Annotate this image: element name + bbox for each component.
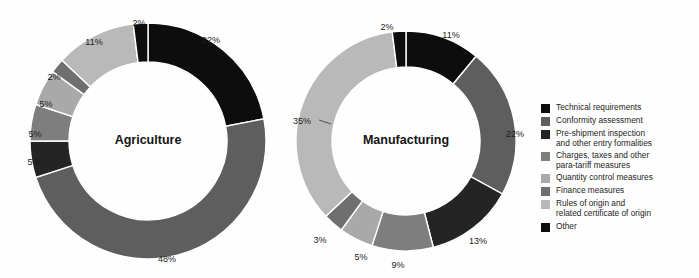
- agriculture-label-quantity: 5%: [39, 99, 52, 109]
- legend-swatch-icon: [541, 117, 550, 126]
- manufacturing-label-charges: 9%: [391, 260, 404, 270]
- legend-swatch-icon: [541, 152, 550, 161]
- legend-item[interactable]: Other: [541, 222, 699, 232]
- slice-conformity: [453, 56, 516, 194]
- manufacturing-label-preshipment: 13%: [469, 236, 487, 246]
- slice-rules: [296, 32, 397, 216]
- legend-swatch-icon: [541, 223, 550, 232]
- agriculture-label-other: 2%: [132, 18, 145, 28]
- legend-item[interactable]: Quantity control measures: [541, 173, 699, 183]
- manufacturing-label-conformity: 22%: [506, 129, 524, 139]
- manufacturing-label-other: 2%: [380, 22, 393, 32]
- chart-page: Agriculture 22% 48% 5% 5% 5% 2% 11% 2% M…: [0, 0, 699, 278]
- agriculture-label-technical: 22%: [202, 35, 220, 45]
- agriculture-center-title: Agriculture: [115, 133, 182, 147]
- agriculture-label-preshipment: 5%: [27, 157, 40, 167]
- legend-item[interactable]: Finance measures: [541, 186, 699, 196]
- legend-item[interactable]: Technical requirements: [541, 103, 699, 113]
- agriculture-label-rules: 11%: [85, 37, 102, 47]
- legend-item-label: Other: [556, 222, 577, 232]
- chart-legend: Technical requirementsConformity assessm…: [541, 103, 699, 235]
- legend-item[interactable]: Pre-shipment inspection and other entry …: [541, 129, 699, 148]
- legend-item-label: Charges, taxes and other para-tariff mea…: [556, 151, 649, 170]
- manufacturing-donut-chart: Manufacturing 11% 22% 13% 9% 5% 3% 35% 2…: [275, 0, 540, 278]
- agriculture-svg: Agriculture 22% 48% 5% 5% 5% 2% 11% 2%: [0, 0, 300, 278]
- legend-swatch-icon: [541, 174, 550, 183]
- legend-item-label: Conformity assessment: [556, 116, 643, 126]
- agriculture-label-charges: 5%: [28, 129, 41, 139]
- legend-item-label: Finance measures: [556, 186, 624, 196]
- agriculture-label-finance: 2%: [47, 72, 60, 82]
- manufacturing-label-rules: 35%: [293, 116, 311, 126]
- manufacturing-label-finance: 3%: [313, 235, 326, 245]
- legend-swatch-icon: [541, 200, 550, 209]
- legend-item-label: Quantity control measures: [556, 173, 653, 183]
- legend-swatch-icon: [541, 187, 550, 196]
- manufacturing-label-technical: 11%: [442, 30, 459, 40]
- manufacturing-svg: Manufacturing 11% 22% 13% 9% 5% 3% 35% 2…: [275, 0, 540, 278]
- agriculture-donut-chart: Agriculture 22% 48% 5% 5% 5% 2% 11% 2%: [0, 0, 300, 278]
- agriculture-label-conformity: 48%: [158, 254, 176, 264]
- manufacturing-label-quantity: 5%: [354, 252, 367, 262]
- manufacturing-center-title: Manufacturing: [363, 133, 449, 147]
- legend-swatch-icon: [541, 130, 550, 139]
- legend-item-label: Rules of origin and related certificate …: [556, 199, 651, 218]
- legend-item-label: Technical requirements: [556, 103, 641, 113]
- legend-item[interactable]: Charges, taxes and other para-tariff mea…: [541, 151, 699, 170]
- legend-swatch-icon: [541, 104, 550, 113]
- legend-item[interactable]: Rules of origin and related certificate …: [541, 199, 699, 218]
- legend-item-label: Pre-shipment inspection and other entry …: [556, 129, 652, 148]
- legend-item[interactable]: Conformity assessment: [541, 116, 699, 126]
- slice-pre-shipment: [424, 177, 502, 248]
